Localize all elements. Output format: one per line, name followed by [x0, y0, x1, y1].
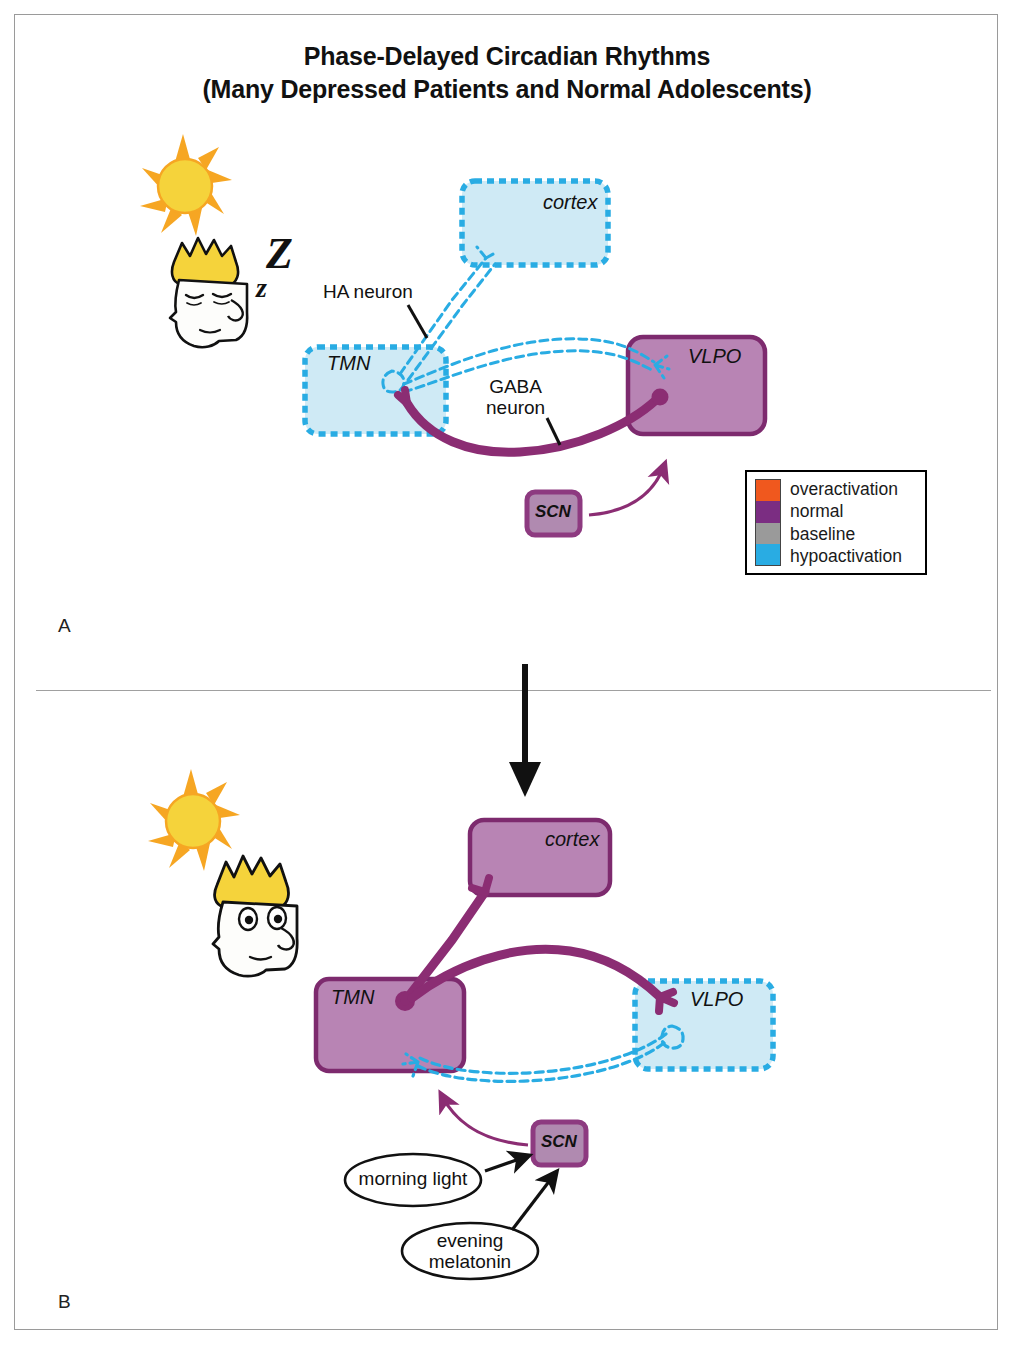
legend-swatch-overactivation: [756, 480, 780, 501]
legend-label-column: overactivation normal baseline hypoactiv…: [790, 479, 902, 566]
panel-b-vlpo-label: VLPO: [690, 988, 743, 1011]
legend-label-hypoactivation: hypoactivation: [790, 547, 902, 566]
panel-a-gaba-neuron-label: GABA neuron: [486, 376, 545, 419]
panel-b-evening-melatonin-label: evening melatonin: [407, 1231, 533, 1273]
figure-page: Phase-Delayed Circadian Rhythms (Many De…: [0, 0, 1014, 1347]
panel-a-label: A: [58, 615, 71, 637]
melatonin-line1: evening: [437, 1230, 504, 1251]
panel-b-cortex-label: cortex: [545, 828, 599, 851]
legend-swatch-hypoactivation: [756, 544, 780, 565]
panel-b-scn-label: SCN: [541, 1132, 577, 1152]
melatonin-line2: melatonin: [429, 1251, 511, 1272]
activation-legend: overactivation normal baseline hypoactiv…: [745, 470, 927, 575]
legend-label-baseline: baseline: [790, 525, 902, 544]
figure-title-line1: Phase-Delayed Circadian Rhythms: [304, 42, 710, 70]
panel-a-tmn-label: TMN: [327, 352, 370, 375]
figure-title: Phase-Delayed Circadian Rhythms (Many De…: [0, 40, 1014, 105]
panel-b-tmn-label: TMN: [331, 986, 374, 1009]
sleep-z-small: z: [256, 272, 267, 304]
panel-a-vlpo-label: VLPO: [688, 345, 741, 368]
legend-label-normal: normal: [790, 502, 902, 521]
gaba-line2: neuron: [486, 397, 545, 418]
sleep-z-large: Z: [266, 228, 293, 279]
panel-a-cortex-label: cortex: [543, 191, 597, 214]
panel-a-scn-label: SCN: [535, 502, 571, 522]
panel-divider: [36, 690, 991, 691]
legend-swatch-baseline: [756, 523, 780, 544]
legend-label-overactivation: overactivation: [790, 480, 902, 499]
panel-a-ha-neuron-label: HA neuron: [323, 281, 413, 302]
legend-swatch-normal: [756, 501, 780, 522]
legend-swatch-column: [755, 479, 781, 566]
panel-b-label: B: [58, 1291, 71, 1313]
figure-title-line2: (Many Depressed Patients and Normal Adol…: [0, 73, 1014, 106]
gaba-line1: GABA: [489, 376, 542, 397]
figure-frame: [14, 14, 998, 1330]
panel-b-morning-light-label: morning light: [350, 1169, 476, 1190]
